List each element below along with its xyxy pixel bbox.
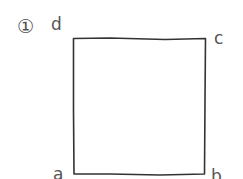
square-figure [0,0,243,179]
vertex-label-d: d [51,16,62,33]
vertex-label-c: c [214,30,223,47]
figure-number-label: ① [17,17,34,36]
vertex-label-a: a [53,166,63,179]
diagram-canvas: ① d c a b [0,0,243,179]
square-outline [74,38,206,175]
vertex-label-b: b [211,168,222,179]
